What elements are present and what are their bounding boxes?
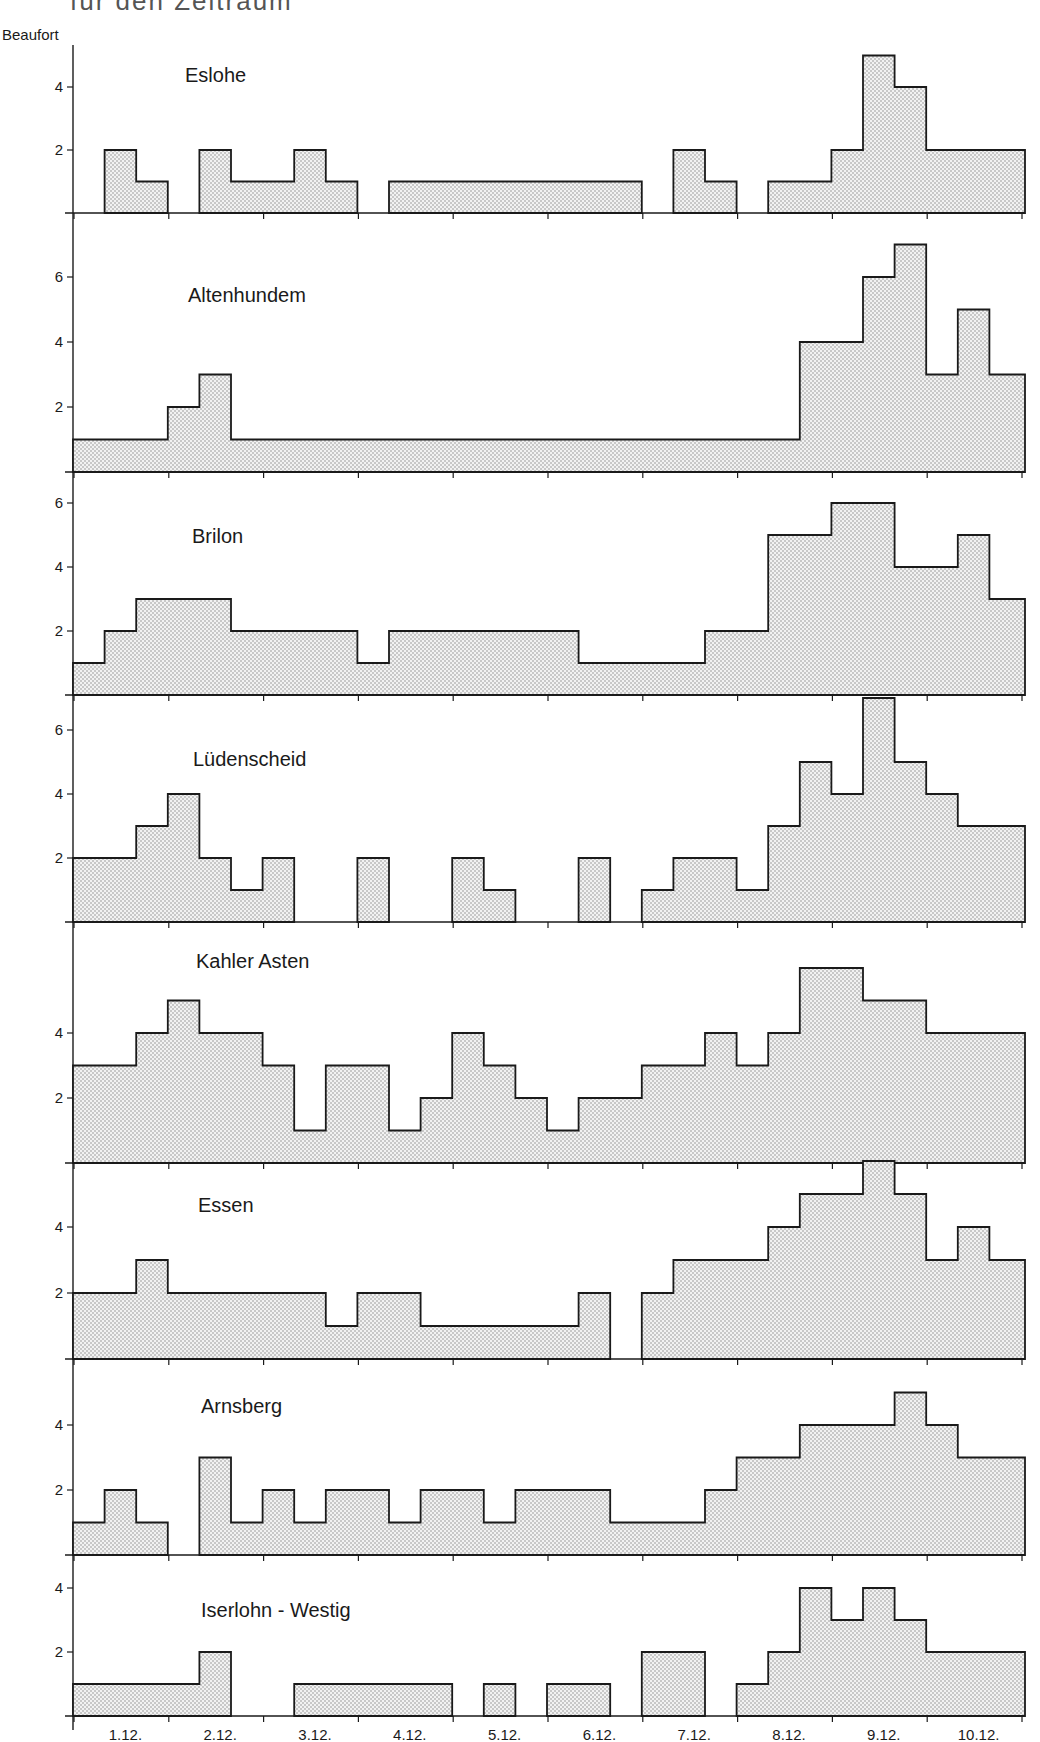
x-tick-label: 4.12. xyxy=(393,1726,426,1742)
wind-step-bar xyxy=(642,1161,1025,1359)
y-tick-label: 2 xyxy=(55,1284,63,1301)
station-title: Lüdenscheid xyxy=(193,748,306,770)
wind-step-bar xyxy=(294,1684,452,1716)
station-panel: 246Lüdenscheid xyxy=(55,695,1025,928)
y-tick-label: 2 xyxy=(55,141,63,158)
station-title: Arnsberg xyxy=(201,1395,282,1417)
y-tick-label: 2 xyxy=(55,849,63,866)
station-panel: 24Kahler Asten xyxy=(55,922,1025,1169)
x-tick-label: 7.12. xyxy=(678,1726,711,1742)
x-tick-label: 5.12. xyxy=(488,1726,521,1742)
wind-step-bar xyxy=(105,150,168,213)
station-title: Kahler Asten xyxy=(196,950,309,972)
station-panel: 24Arnsberg xyxy=(55,1359,1025,1561)
wind-step-bar xyxy=(579,858,611,922)
station-title: Iserlohn - Westig xyxy=(201,1599,351,1621)
y-tick-label: 2 xyxy=(55,398,63,415)
station-panel: 246Altenhundem xyxy=(55,213,1025,478)
wind-step-bar xyxy=(199,150,357,213)
station-panel: 24Essen xyxy=(55,1161,1025,1365)
y-tick-label: 4 xyxy=(55,1024,63,1041)
wind-step-bar xyxy=(452,858,515,922)
y-axis-label: Beaufort xyxy=(2,26,60,43)
x-tick-label: 6.12. xyxy=(583,1726,616,1742)
wind-step-bar xyxy=(389,182,642,214)
x-tick-label: 1.12. xyxy=(109,1726,142,1742)
x-tick-label: 8.12. xyxy=(772,1726,805,1742)
wind-step-bar xyxy=(73,1652,231,1716)
wind-step-bar xyxy=(73,1260,610,1359)
station-panel: 246Brilon xyxy=(55,472,1025,701)
station-panel: 24Eslohe xyxy=(55,45,1025,219)
wind-step-bar xyxy=(673,150,736,213)
wind-step-bar xyxy=(357,858,389,922)
y-tick-label: 2 xyxy=(55,1089,63,1106)
y-tick-label: 4 xyxy=(55,1416,63,1433)
wind-step-bar xyxy=(768,56,1025,214)
y-tick-label: 4 xyxy=(55,78,63,95)
station-title: Brilon xyxy=(192,525,243,547)
wind-step-bar xyxy=(73,968,1025,1163)
y-tick-label: 2 xyxy=(55,1481,63,1498)
y-tick-label: 6 xyxy=(55,494,63,511)
wind-step-bar xyxy=(484,1684,516,1716)
y-tick-label: 6 xyxy=(55,268,63,285)
y-tick-label: 4 xyxy=(55,1579,63,1596)
wind-step-bar xyxy=(73,794,294,922)
y-tick-label: 4 xyxy=(55,785,63,802)
station-panel: 24Iserlohn - Westig xyxy=(55,1555,1025,1730)
y-tick-label: 4 xyxy=(55,558,63,575)
x-axis-labels: 1.12.2.12.3.12.4.12.5.12.6.12.7.12.8.12.… xyxy=(109,1726,1000,1742)
station-panels: 24Eslohe246Altenhundem246Brilon246Lüdens… xyxy=(55,45,1025,1730)
y-tick-label: 4 xyxy=(55,1218,63,1235)
wind-step-bar xyxy=(73,1490,168,1555)
station-title: Altenhundem xyxy=(188,284,306,306)
y-tick-label: 4 xyxy=(55,333,63,350)
wind-step-bar xyxy=(199,1393,1025,1556)
wind-step-bar xyxy=(737,1588,1025,1716)
x-tick-label: 10.12. xyxy=(958,1726,1000,1742)
y-tick-label: 2 xyxy=(55,1643,63,1660)
y-tick-label: 6 xyxy=(55,721,63,738)
wind-step-bar xyxy=(642,1652,705,1716)
station-title: Essen xyxy=(198,1194,254,1216)
station-title: Eslohe xyxy=(185,64,246,86)
x-tick-label: 3.12. xyxy=(298,1726,331,1742)
x-tick-label: 9.12. xyxy=(867,1726,900,1742)
wind-step-bar xyxy=(547,1684,610,1716)
wind-step-bar xyxy=(642,698,1025,922)
wind-force-chart: Beaufort 24Eslohe246Altenhundem246Brilon… xyxy=(0,0,1040,1742)
y-tick-label: 2 xyxy=(55,622,63,639)
wind-step-bar xyxy=(73,245,1025,473)
x-tick-label: 2.12. xyxy=(204,1726,237,1742)
